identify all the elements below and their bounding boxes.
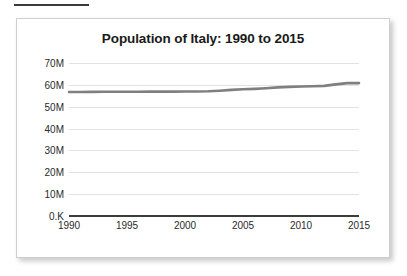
x-axis-tick-label: 2015 [348, 220, 370, 231]
top-divider-rule [14, 4, 89, 6]
x-axis-tick-label: 1990 [58, 220, 80, 231]
y-axis-tick-label: 40M [45, 123, 64, 134]
y-axis-tick-label: 10M [45, 189, 64, 200]
y-axis-tick-label: 20M [45, 167, 64, 178]
chart-title: Population of Italy: 1990 to 2015 [17, 31, 389, 46]
y-axis-tick-label: 50M [45, 101, 64, 112]
y-axis-tick-label: 60M [45, 79, 64, 90]
y-axis-tick-label: 70M [45, 58, 64, 69]
plot-area: 0.K10M20M30M40M50M60M70M 199019952000200… [69, 63, 359, 216]
y-axis-tick-label: 30M [45, 145, 64, 156]
x-axis-tick-label: 2005 [232, 220, 254, 231]
x-axis-tick-label: 2000 [174, 220, 196, 231]
x-axis-tick-label: 1995 [116, 220, 138, 231]
chart-card: Population of Italy: 1990 to 2015 0.K10M… [16, 18, 390, 258]
x-axis-tick-label: 2010 [290, 220, 312, 231]
series-line-population [69, 63, 359, 216]
